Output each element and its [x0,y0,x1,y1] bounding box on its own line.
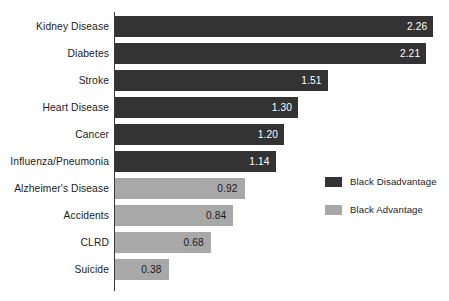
legend-swatch-icon [325,205,342,215]
bar-row: Influenza/Pneumonia1.14 [0,151,449,172]
bar-value-label: 1.14 [249,151,269,172]
bar: 0.84 [115,205,233,226]
bar-rows: Kidney Disease2.26Diabetes2.21Stroke1.51… [0,0,449,301]
category-label: Accidents [63,205,109,226]
category-label: Alzheimer's Disease [14,178,109,199]
legend-item: Black Advantage [325,202,445,217]
bar-row: CLRD0.68 [0,232,449,253]
bar: 0.68 [115,232,211,253]
category-label: Stroke [79,70,109,91]
bar-value-label: 0.68 [184,232,204,253]
bar: 0.92 [115,178,245,199]
bar-chart: Kidney Disease2.26Diabetes2.21Stroke1.51… [0,0,449,301]
legend-label: Black Advantage [350,204,423,215]
chart-legend: Black DisadvantageBlack Advantage [325,174,445,230]
bar: 0.38 [115,259,169,280]
category-label: Heart Disease [42,97,109,118]
bar-value-label: 2.26 [407,16,427,37]
bar: 1.20 [115,124,284,145]
category-label: Influenza/Pneumonia [10,151,109,172]
bar-value-label: 1.30 [272,97,292,118]
bar: 1.14 [115,151,276,172]
category-label: CLRD [81,232,109,253]
bar-value-label: 2.21 [400,43,420,64]
bar-value-label: 0.38 [141,259,161,280]
bar-row: Kidney Disease2.26 [0,16,449,37]
bar-row: Suicide0.38 [0,259,449,280]
bar: 1.30 [115,97,298,118]
bar: 1.51 [115,70,328,91]
bar: 2.21 [115,43,426,64]
bar-row: Heart Disease1.30 [0,97,449,118]
bar-row: Stroke1.51 [0,70,449,91]
bar-value-label: 0.92 [217,178,237,199]
legend-swatch-icon [325,177,342,187]
bar-value-label: 1.51 [301,70,321,91]
category-label: Diabetes [68,43,109,64]
bar-row: Diabetes2.21 [0,43,449,64]
category-label: Suicide [75,259,109,280]
bar-value-label: 1.20 [258,124,278,145]
category-label: Kidney Disease [36,16,109,37]
category-label: Cancer [75,124,109,145]
bar: 2.26 [115,16,433,37]
bar-value-label: 0.84 [206,205,226,226]
bar-row: Cancer1.20 [0,124,449,145]
legend-item: Black Disadvantage [325,174,445,189]
legend-label: Black Disadvantage [350,176,437,187]
